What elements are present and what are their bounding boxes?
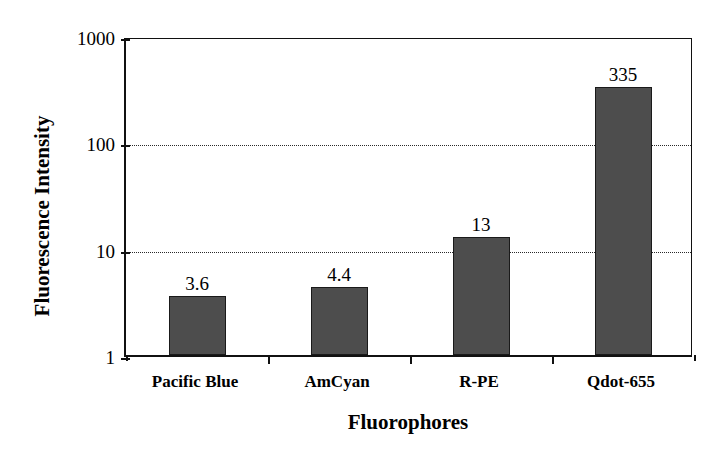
y-axis-tick-label: 100	[87, 134, 116, 156]
x-axis-end-tick	[694, 355, 696, 361]
x-axis-category-label: Qdot-655	[587, 372, 655, 392]
x-axis-tick	[268, 355, 270, 364]
bar	[453, 237, 510, 355]
y-axis-tick	[121, 39, 130, 41]
x-axis-end-tick	[126, 355, 128, 361]
bar-chart-figure: Fluorescence Intensity 11010010003.64.41…	[0, 0, 712, 463]
y-axis-tick-label: 10	[96, 241, 115, 263]
x-axis-category-label: AmCyan	[304, 372, 369, 392]
bar	[311, 287, 368, 355]
x-axis-title: Fluorophores	[124, 410, 692, 435]
y-axis-tick-label: 1000	[77, 28, 115, 50]
plot-area: 11010010003.64.413335	[124, 38, 692, 357]
bar-value-label: 4.4	[327, 264, 351, 286]
bar-value-label: 335	[609, 64, 638, 86]
x-axis-category-label: Pacific Blue	[152, 372, 238, 392]
y-axis-tick-label: 1	[106, 347, 116, 369]
y-axis-tick	[121, 145, 130, 147]
x-axis-category-label: R-PE	[459, 372, 499, 392]
bar-value-label: 13	[472, 214, 491, 236]
y-axis-title: Fluorescence Intensity	[22, 56, 62, 376]
x-axis-tick	[552, 355, 554, 364]
y-axis-tick	[121, 252, 130, 254]
bar	[169, 296, 226, 355]
x-axis-tick	[410, 355, 412, 364]
bar-value-label: 3.6	[185, 273, 209, 295]
bar	[595, 87, 652, 355]
